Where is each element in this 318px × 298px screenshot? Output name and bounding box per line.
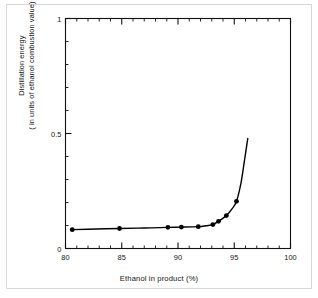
plot-area <box>0 0 318 298</box>
x-tick-label: 90 <box>174 253 182 262</box>
y-tick-label: 0 <box>44 244 62 253</box>
data-point <box>224 213 229 218</box>
chart-svg <box>0 0 318 298</box>
data-line <box>72 139 248 230</box>
data-point <box>70 227 75 232</box>
x-tick-label: 100 <box>284 253 297 262</box>
x-tick-label: 95 <box>230 253 238 262</box>
y-axis-title: Distillation energy ( in units of ethano… <box>17 0 36 161</box>
axis-frame <box>66 19 291 249</box>
data-point <box>196 224 201 229</box>
data-point <box>117 226 122 231</box>
x-tick-label: 80 <box>61 253 69 262</box>
data-point <box>210 222 215 227</box>
data-point <box>216 219 221 224</box>
x-axis-title: Ethanol in product (%) <box>0 274 318 283</box>
x-tick-label: 85 <box>118 253 126 262</box>
y-axis-title-line2: ( in units of ethanol combustion value) <box>27 0 37 161</box>
y-tick-label: 1 <box>44 14 62 23</box>
x-minor-ticks <box>66 19 291 249</box>
data-point <box>165 225 170 230</box>
y-ticks <box>66 19 72 249</box>
data-point <box>234 199 239 204</box>
y-axis-title-line1: Distillation energy <box>17 35 26 95</box>
y-tick-label: 0.5 <box>44 129 62 138</box>
figure-container: Distillation energy ( in units of ethano… <box>0 0 318 298</box>
data-point <box>179 225 184 230</box>
